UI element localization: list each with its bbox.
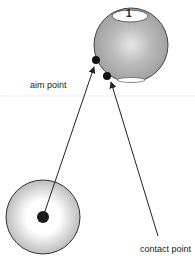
contact-line	[111, 82, 158, 236]
object-ball	[94, 8, 168, 83]
object-ball-number: 1	[126, 8, 132, 19]
aim-point-label: aim point	[30, 80, 67, 90]
contact-point-label: contact point	[140, 244, 191, 254]
aim-point-dot	[92, 56, 100, 64]
contact-point-dot	[103, 72, 111, 80]
stripe-bottom	[117, 78, 145, 83]
billiards-aim-diagram	[0, 0, 195, 263]
